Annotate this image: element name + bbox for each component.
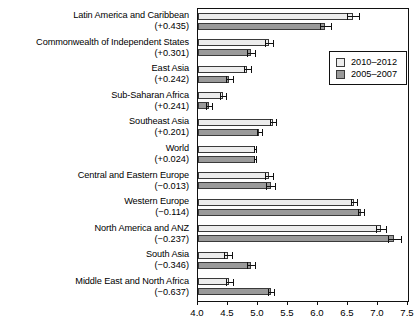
error-bar-cap xyxy=(268,289,269,296)
legend-item-recent: 2010–2012 xyxy=(336,56,401,68)
category-delta-value: (−0.114) xyxy=(0,207,189,218)
error-bar-cap xyxy=(212,103,213,110)
chart-legend: 2010–2012 2005–2007 xyxy=(329,51,407,85)
error-bar-cap xyxy=(233,76,234,83)
bar-recent xyxy=(198,13,353,20)
x-axis-tick xyxy=(377,301,378,305)
error-bar-line xyxy=(266,186,274,187)
category-delta-value: (+0.241) xyxy=(0,101,189,112)
error-bar-cap xyxy=(254,146,255,153)
error-bar-cap xyxy=(255,262,256,269)
x-axis-tick xyxy=(287,301,288,305)
category-delta-value: (+0.242) xyxy=(0,74,189,85)
error-bar-cap xyxy=(232,252,233,259)
bar-earlier xyxy=(198,23,325,30)
bar-recent xyxy=(198,199,354,206)
error-bar-cap xyxy=(359,13,360,20)
category-name: Commonwealth of Independent States xyxy=(0,37,189,48)
error-bar-cap xyxy=(274,289,275,296)
x-axis-tick xyxy=(407,301,408,305)
category-delta-value: (+0.301) xyxy=(0,48,189,59)
error-bar-line xyxy=(320,26,331,27)
category-name: Southeast Asia xyxy=(0,116,189,127)
category-delta-value: (+0.024) xyxy=(0,154,189,165)
error-bar-cap xyxy=(257,129,258,136)
category-label: Southeast Asia(+0.201) xyxy=(0,116,189,138)
error-bar-cap xyxy=(265,40,266,47)
error-bar-line xyxy=(388,239,401,240)
error-bar-cap xyxy=(351,199,352,206)
category-label: Latin America and Caribbean(+0.435) xyxy=(0,10,189,32)
error-bar-cap xyxy=(220,93,221,100)
error-bar-cap xyxy=(388,236,389,243)
error-bar-cap xyxy=(226,76,227,83)
x-axis-tick-label: 6.5 xyxy=(332,307,362,318)
error-bar-line xyxy=(247,265,255,266)
bar-earlier xyxy=(198,288,271,295)
bar-recent xyxy=(198,172,269,179)
legend-label-2005-2007: 2005–2007 xyxy=(351,69,397,79)
x-axis-tick-label: 7.0 xyxy=(362,307,392,318)
error-bar-cap xyxy=(386,226,387,233)
error-bar-cap xyxy=(226,279,227,286)
x-axis-tick xyxy=(257,301,258,305)
error-bar-cap xyxy=(358,209,359,216)
category-label: Sub-Saharan Africa(+0.241) xyxy=(0,90,189,112)
error-bar-line xyxy=(376,229,387,230)
category-label: East Asia(+0.242) xyxy=(0,63,189,85)
error-bar-cap xyxy=(254,156,255,163)
category-delta-value: (−0.637) xyxy=(0,287,189,298)
bar-recent xyxy=(198,225,381,232)
error-bar-cap xyxy=(320,23,321,30)
error-bar-line xyxy=(244,69,251,70)
bar-earlier xyxy=(198,49,251,56)
bar-earlier xyxy=(198,182,271,189)
error-bar-cap xyxy=(266,183,267,190)
error-bar-cap xyxy=(226,93,227,100)
bar-recent xyxy=(198,66,247,73)
error-bar-cap xyxy=(331,23,332,30)
bar-earlier xyxy=(198,209,361,216)
x-axis-tick-label: 4.5 xyxy=(212,307,242,318)
error-bar-cap xyxy=(244,66,245,73)
category-name: East Asia xyxy=(0,63,189,74)
error-bar-line xyxy=(224,255,231,256)
x-axis-tick xyxy=(347,301,348,305)
category-label: South Asia(−0.346) xyxy=(0,249,189,271)
legend-swatch-icon-2005-2007 xyxy=(336,70,345,79)
category-label: Commonwealth of Independent States(+0.30… xyxy=(0,37,189,59)
error-bar-line xyxy=(347,16,359,17)
bar-recent xyxy=(198,119,273,126)
category-delta-value: (−0.346) xyxy=(0,260,189,271)
category-label-column: Latin America and Caribbean(+0.435)Commo… xyxy=(0,0,193,300)
error-bar-cap xyxy=(224,252,225,259)
error-bar-cap xyxy=(247,262,248,269)
category-name: North America and ANZ xyxy=(0,223,189,234)
error-bar-cap xyxy=(206,103,207,110)
error-bar-line xyxy=(226,282,233,283)
error-bar-cap xyxy=(255,50,256,57)
error-bar-cap xyxy=(401,236,402,243)
x-axis-tick-label: 7.5 xyxy=(392,307,418,318)
category-label: Middle East and North Africa(−0.637) xyxy=(0,276,189,298)
bar-earlier xyxy=(198,76,229,83)
category-name: Latin America and Caribbean xyxy=(0,10,189,21)
legend-swatch-icon-2010-2012 xyxy=(336,58,345,67)
error-bar-cap xyxy=(251,66,252,73)
category-delta-value: (+0.435) xyxy=(0,21,189,32)
error-bar-cap xyxy=(364,209,365,216)
error-bar-cap xyxy=(256,146,257,153)
x-axis-tick-label: 5.5 xyxy=(272,307,302,318)
error-bar-cap xyxy=(270,119,271,126)
error-bar-line xyxy=(226,79,233,80)
legend-label-2010-2012: 2010–2012 xyxy=(351,57,397,67)
error-bar-cap xyxy=(256,156,257,163)
error-bar-cap xyxy=(265,173,266,180)
error-bar-cap xyxy=(275,183,276,190)
error-bar-cap xyxy=(247,50,248,57)
category-label: World(+0.024) xyxy=(0,143,189,165)
bar-earlier xyxy=(198,235,394,242)
category-delta-value: (+0.201) xyxy=(0,127,189,138)
error-bar-cap xyxy=(357,199,358,206)
category-name: South Asia xyxy=(0,249,189,260)
